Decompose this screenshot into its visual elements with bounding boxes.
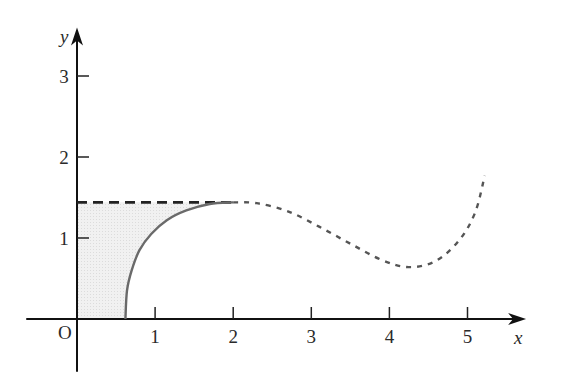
y-tick-label: 1 [59, 228, 69, 249]
x-tick-label: 5 [463, 326, 473, 347]
x-tick-label: 4 [385, 326, 395, 347]
dashed-curve [233, 176, 484, 268]
y-tick-label: 2 [59, 147, 69, 168]
x-tick-label: 1 [150, 326, 160, 347]
x-tick-label: 2 [228, 326, 238, 347]
x-tick-label: 3 [307, 326, 317, 347]
plot-canvas: 12345123 y x O [0, 0, 562, 384]
shaded-region [77, 202, 233, 319]
y-axis-label: y [58, 26, 69, 47]
x-axis-label: x [513, 327, 523, 348]
origin-label: O [58, 322, 72, 343]
y-tick-label: 3 [59, 66, 69, 87]
axes [26, 27, 526, 371]
